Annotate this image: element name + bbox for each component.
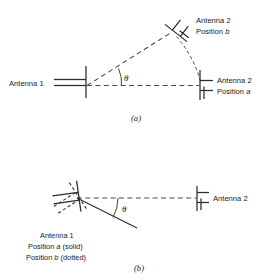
- position-a-letter: a: [246, 87, 250, 96]
- antenna-1-label-panel-b: Antenna 1: [40, 231, 74, 240]
- figure-canvas: θ Antenna 1 Antenna 2 Position a A: [0, 0, 277, 280]
- antenna-geometry-figure: θ Antenna 1 Antenna 2 Position a A: [0, 0, 277, 280]
- antenna-1-position-b-dotted-symbol: [48, 183, 87, 223]
- position-b-dotted-label: Position b (dotted): [26, 253, 86, 262]
- antenna-2-position-b-symbol: [165, 14, 195, 41]
- theta-ray-panel-b: [77, 198, 137, 228]
- theta-arc-b: [113, 198, 118, 218]
- antenna-2-position-a-symbol: [200, 70, 213, 100]
- antenna-2-label-panel-b: Antenna 2: [213, 194, 248, 203]
- caption-b: (b): [134, 263, 144, 273]
- antenna-2-position-b-label-line2: Position b: [196, 27, 229, 36]
- antenna-1-symbol-a: [54, 66, 86, 98]
- position-b-dotted-prefix: Position: [26, 253, 54, 262]
- position-a-solid-prefix: Position: [28, 242, 56, 251]
- antenna-1-position-a-solid-symbol: [51, 181, 81, 215]
- theta-label-b: θ: [122, 204, 127, 214]
- antenna-2-position-a-label-line2: Position a: [217, 87, 250, 96]
- position-b-prefix: Position: [196, 27, 225, 36]
- position-a-solid-suffix: (solid): [60, 242, 82, 251]
- theta-label-a: θ: [124, 73, 129, 83]
- antenna-1-label-a: Antenna 1: [9, 79, 44, 88]
- boresight-line-b: [87, 32, 172, 86]
- theta-arc-a: [119, 69, 122, 86]
- panel-a-group: θ Antenna 1 Antenna 2 Position a A: [9, 14, 252, 123]
- panel-b-group: θ Antenna 2 Antenna 1 Position a (solid)…: [26, 181, 248, 273]
- position-a-prefix: Position: [217, 87, 246, 96]
- position-b-letter: b: [225, 27, 229, 36]
- antenna-2-position-b-label-line1: Antenna 2: [196, 16, 231, 25]
- position-b-dotted-suffix: (dotted): [58, 253, 86, 262]
- rotation-arc-path: [177, 37, 201, 82]
- position-a-solid-label: Position a (solid): [28, 242, 83, 251]
- antenna-2-symbol-panel-b: [197, 186, 209, 211]
- antenna-2-position-a-label-line1: Antenna 2: [217, 76, 252, 85]
- caption-a: (a): [131, 113, 141, 123]
